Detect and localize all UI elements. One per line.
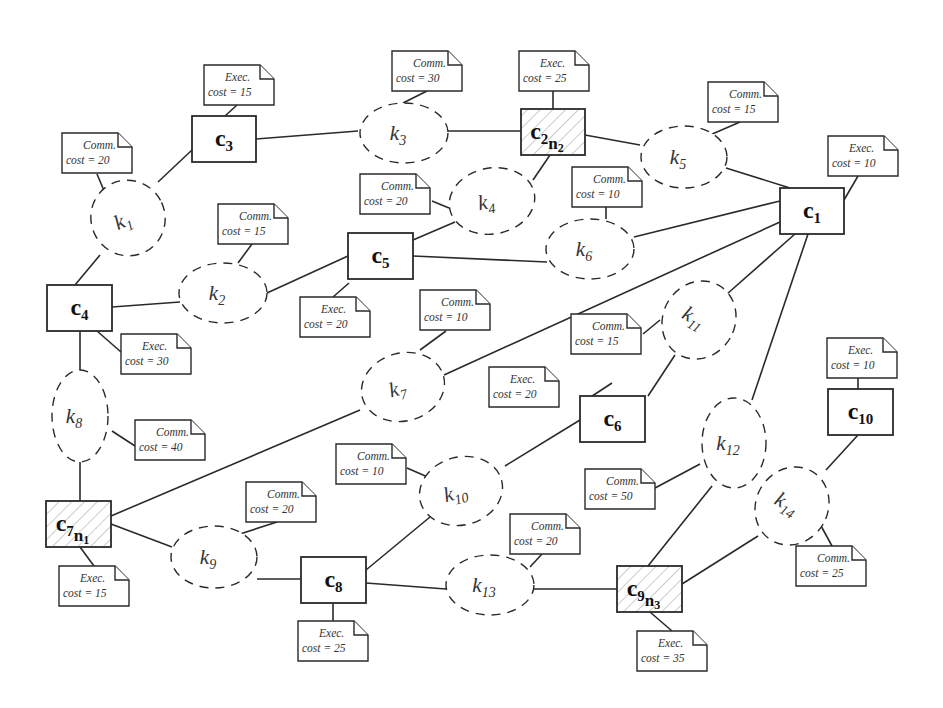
link-edge	[826, 435, 858, 470]
connector-k9[interactable]: k9	[171, 526, 257, 588]
note-fold	[356, 297, 370, 311]
note-cost: cost = 15	[712, 103, 756, 115]
note-anchor-line	[655, 464, 700, 488]
note-kind: Exec.	[224, 71, 250, 83]
link-edge	[413, 222, 455, 240]
note-anchor-line	[710, 122, 740, 135]
connector-k10[interactable]: k10	[412, 447, 511, 534]
note-fold	[566, 514, 580, 528]
note-kind: Comm.	[729, 88, 762, 100]
component-c9[interactable]: c9n3	[617, 566, 682, 612]
note-kind: Comm.	[239, 210, 272, 222]
note-kind: Comm.	[267, 488, 300, 500]
component-c1[interactable]: c1	[780, 188, 844, 234]
cost-note-k11: Comm.cost = 15	[571, 314, 641, 354]
note-cost: cost = 15	[575, 335, 619, 347]
cost-note-c5: Exec.cost = 20	[300, 297, 370, 337]
link-edge	[158, 150, 192, 182]
note-cost: cost = 15	[208, 86, 252, 98]
note-cost: cost = 15	[63, 587, 107, 599]
cost-note-k1: Comm.cost = 20	[62, 133, 132, 173]
note-cost: cost = 25	[302, 642, 346, 654]
note-cost: cost = 20	[66, 154, 110, 166]
link-edge	[648, 355, 675, 396]
note-kind: Exec.	[509, 373, 535, 385]
note-anchor-line	[403, 91, 427, 103]
note-kind: Comm.	[606, 475, 639, 487]
cost-note-k13: Comm.cost = 20	[510, 514, 580, 554]
component-c10[interactable]: c10	[828, 389, 893, 435]
note-kind: Exec.	[318, 627, 344, 639]
cost-note-c3: Exec.cost = 15	[204, 65, 274, 105]
note-cost: cost = 25	[800, 567, 844, 579]
connector-k1[interactable]: k1	[78, 168, 177, 268]
cost-note-k4: Comm.cost = 20	[360, 174, 430, 214]
connector-k8[interactable]: k8	[52, 370, 108, 462]
connector-k5[interactable]: k5	[641, 126, 727, 188]
link-edge	[75, 255, 100, 285]
note-fold	[118, 133, 132, 147]
component-c2[interactable]: c2n2	[521, 109, 585, 155]
connector-k12[interactable]: k12	[702, 398, 766, 488]
note-kind: Exec.	[141, 340, 167, 352]
note-anchor-line	[420, 331, 446, 350]
note-anchor-line	[225, 105, 237, 116]
note-anchor-line	[97, 331, 121, 352]
note-fold	[274, 204, 288, 218]
note-fold	[416, 174, 430, 188]
cost-note-k5: Comm.cost = 15	[708, 82, 778, 122]
link-edge	[267, 256, 348, 293]
component-c4[interactable]: c4	[47, 285, 112, 331]
note-fold	[392, 444, 406, 458]
cost-note-c4: Exec.cost = 30	[121, 334, 191, 374]
note-cost: cost = 20	[514, 535, 558, 547]
link-edge	[752, 234, 808, 400]
connector-k11[interactable]: k11	[648, 267, 750, 372]
note-cost: cost = 35	[641, 652, 685, 664]
link-edge	[505, 420, 580, 466]
note-fold	[476, 290, 490, 304]
cost-note-c6: Exec.cost = 20	[489, 367, 559, 407]
note-anchor-line	[80, 547, 94, 566]
link-edge	[585, 135, 640, 145]
link-edge	[256, 131, 358, 139]
link-edge	[682, 536, 758, 584]
component-c7[interactable]: c7n1	[46, 501, 111, 547]
cost-note-k10: Comm.cost = 10	[336, 444, 406, 484]
note-kind: Comm.	[357, 450, 390, 462]
note-cost: cost = 30	[396, 72, 440, 84]
link-edge	[727, 234, 795, 294]
note-cost: cost = 10	[576, 188, 620, 200]
note-fold	[693, 631, 707, 645]
connector-k6[interactable]: k6	[546, 219, 634, 279]
component-c3[interactable]: c3	[192, 116, 256, 162]
note-fold	[852, 546, 866, 560]
component-c8[interactable]: c8	[301, 557, 366, 603]
note-kind: Exec.	[539, 57, 565, 69]
connector-k3[interactable]: k3	[360, 103, 448, 163]
component-c5[interactable]: c5	[348, 233, 413, 279]
note-cost: cost = 50	[589, 490, 633, 502]
note-cost: cost = 20	[364, 195, 408, 207]
cost-note-c8: Exec.cost = 25	[298, 621, 368, 661]
cost-note-c10: Exec.cost = 10	[827, 338, 897, 378]
link-edge	[533, 155, 550, 180]
note-kind: Comm.	[531, 520, 564, 532]
link-edge	[366, 583, 446, 589]
note-cost: cost = 20	[304, 318, 348, 330]
cost-note-k7: Comm.cost = 10	[420, 290, 490, 330]
connector-k4[interactable]: k4	[444, 161, 540, 241]
note-anchor-line	[650, 612, 672, 631]
cost-note-k14: Comm.cost = 25	[796, 546, 866, 586]
connector-k2[interactable]: k2	[179, 263, 267, 323]
component-c6[interactable]: c6	[580, 396, 645, 442]
link-edge	[366, 517, 430, 570]
connector-k13[interactable]: k13	[446, 555, 534, 615]
note-kind: Comm.	[441, 296, 474, 308]
note-anchor-line	[643, 320, 660, 334]
note-fold	[191, 420, 205, 434]
note-cost: cost = 40	[139, 441, 183, 453]
note-anchor-line	[530, 554, 542, 567]
note-cost: cost = 20	[493, 388, 537, 400]
connector-k7[interactable]: k7	[354, 343, 453, 430]
